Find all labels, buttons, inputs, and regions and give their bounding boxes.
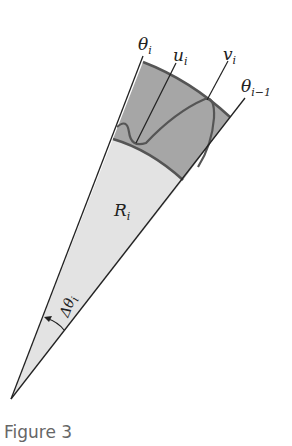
label-u-i: ui <box>173 45 187 68</box>
label-theta-i-minus-1: θi−1 <box>241 76 271 99</box>
polar-sector-diagram: θi ui vi θi−1 Ri Δθi Figure 3 <box>0 0 292 446</box>
label-theta-i: θi <box>138 34 152 57</box>
v-leader <box>207 61 228 100</box>
label-v-i: vi <box>223 44 236 67</box>
figure-caption: Figure 3 <box>4 422 72 442</box>
inner-sector-region <box>11 139 183 399</box>
